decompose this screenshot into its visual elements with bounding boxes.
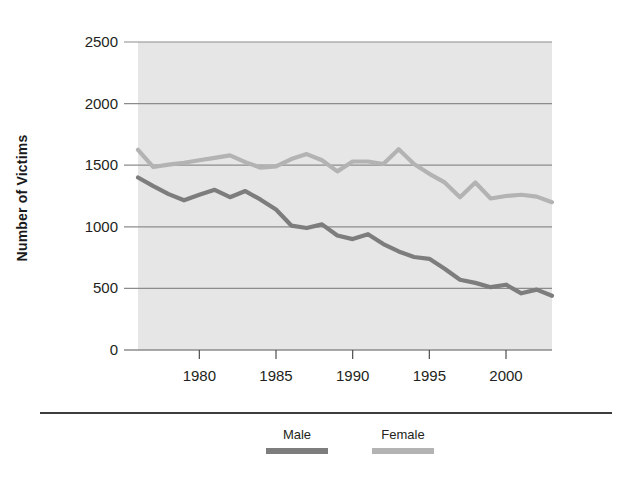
legend-label: Male	[262, 428, 332, 441]
legend-item-female[interactable]: Female	[368, 428, 438, 454]
x-axis-tick-marks	[199, 350, 506, 359]
footer-divider-rule	[40, 412, 612, 414]
x-tick-label: 2000	[476, 368, 536, 383]
chart-figure: Number of Victims 25002000150010005000 1…	[0, 0, 634, 483]
line-chart-plot	[0, 0, 634, 483]
chart-legend: MaleFemale	[0, 428, 634, 473]
y-tick-label: 1500	[60, 157, 118, 172]
legend-swatch	[372, 448, 434, 454]
y-tick-label: 2500	[60, 34, 118, 49]
legend-item-male[interactable]: Male	[262, 428, 332, 454]
x-tick-label: 1990	[323, 368, 383, 383]
x-tick-label: 1985	[246, 368, 306, 383]
y-tick-label: 500	[60, 280, 118, 295]
x-tick-label: 1995	[399, 368, 459, 383]
x-tick-label: 1980	[169, 368, 229, 383]
y-tick-label: 1000	[60, 219, 118, 234]
y-tick-label: 0	[60, 342, 118, 357]
legend-label: Female	[368, 428, 438, 441]
legend-swatch	[266, 448, 328, 454]
y-tick-label: 2000	[60, 96, 118, 111]
